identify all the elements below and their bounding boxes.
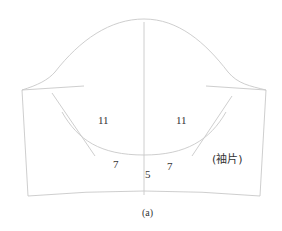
left-side-seam xyxy=(22,90,28,196)
sleeve-pattern-drawing xyxy=(0,0,282,231)
right-side-seam xyxy=(260,90,266,196)
label-center-5: 5 xyxy=(145,169,151,180)
label-piece-name: (袖片) xyxy=(212,154,243,165)
left-diagonal-guide xyxy=(52,93,95,156)
label-right-7: 7 xyxy=(167,161,173,172)
label-left-11: 11 xyxy=(98,115,109,126)
label-right-11: 11 xyxy=(176,115,187,126)
label-left-7: 7 xyxy=(113,159,119,170)
figure-caption: (a) xyxy=(142,208,153,218)
right-diagonal-guide xyxy=(192,96,232,156)
